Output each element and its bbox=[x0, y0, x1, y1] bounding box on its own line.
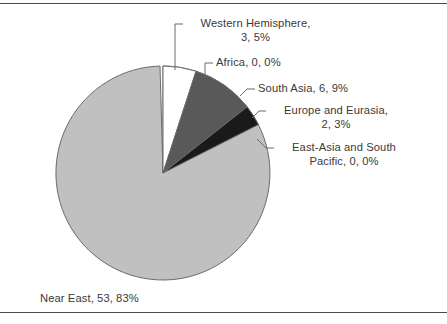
pie-label-africa: Africa, 0, 0% bbox=[216, 56, 346, 70]
leader-line-south-asia bbox=[240, 89, 255, 96]
pie-label-east-asia-pacific: East-Asia and South Pacific, 0, 0% bbox=[274, 141, 414, 168]
pie-label-south-asia: South Asia, 6, 9% bbox=[258, 82, 408, 96]
pie-label-near-east: Near East, 53, 83% bbox=[40, 292, 220, 306]
leader-line-western-hemisphere bbox=[175, 24, 183, 70]
pie-label-europe-eurasia: Europe and Eurasia, 2, 3% bbox=[266, 104, 406, 131]
pie-label-western-hemisphere: Western Hemisphere, 3, 5% bbox=[183, 17, 328, 44]
pie-chart-figure: Western Hemisphere, 3, 5% Africa, 0, 0% … bbox=[0, 0, 447, 324]
